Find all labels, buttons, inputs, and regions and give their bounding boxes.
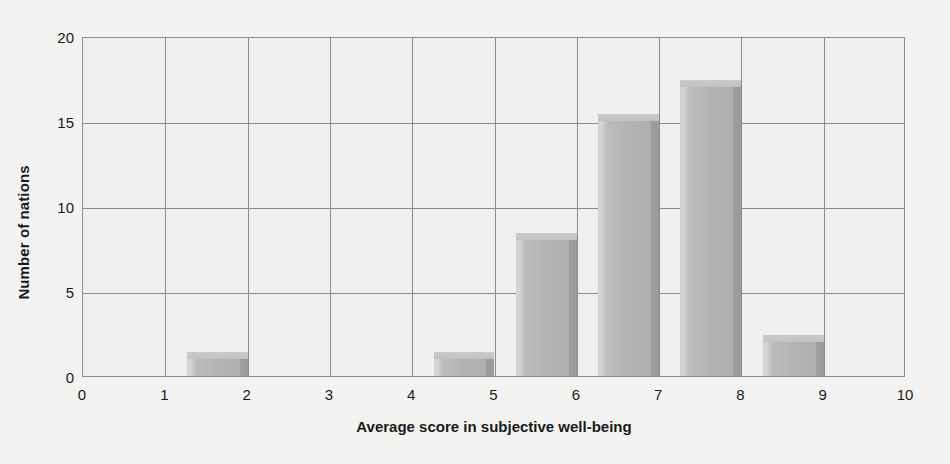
x-axis-tick: 6 (572, 386, 580, 403)
x-axis-tick: 10 (897, 386, 914, 403)
vertical-gridline (741, 38, 742, 376)
y-axis-tick: 15 (34, 114, 74, 131)
y-axis-tick: 5 (34, 284, 74, 301)
x-axis-tick: 2 (242, 386, 250, 403)
vertical-gridline (165, 38, 166, 376)
bar-side (485, 352, 494, 376)
bar-face (434, 359, 487, 376)
vertical-gridline (495, 38, 496, 376)
vertical-gridline (659, 38, 660, 376)
bar-side (568, 233, 577, 376)
bar-top (763, 335, 824, 342)
horizontal-gridline (83, 293, 904, 294)
bar (680, 87, 732, 376)
vertical-gridline (412, 38, 413, 376)
bar-face (187, 359, 240, 376)
bar-side (650, 114, 659, 376)
x-axis-tick: 8 (736, 386, 744, 403)
bar-top (187, 352, 248, 359)
bar-side (815, 335, 824, 376)
y-axis-tick: 10 (34, 199, 74, 216)
y-axis-tick: 0 (34, 369, 74, 386)
chart-figure: Number of nations 05101520 012345678910 … (0, 0, 950, 464)
vertical-gridline (248, 38, 249, 376)
x-axis-tick: 9 (819, 386, 827, 403)
bar-face (763, 342, 816, 376)
vertical-gridline (824, 38, 825, 376)
bar-top (680, 80, 741, 87)
x-axis-tick: 3 (325, 386, 333, 403)
horizontal-gridline (83, 123, 904, 124)
bar-face (516, 240, 569, 376)
bar-face (598, 121, 651, 376)
vertical-gridline (577, 38, 578, 376)
horizontal-gridline (83, 208, 904, 209)
vertical-gridline (330, 38, 331, 376)
bar-top (598, 114, 659, 121)
bar (516, 240, 568, 376)
x-axis-tick: 5 (489, 386, 497, 403)
bar-face (680, 87, 733, 376)
bar-side (239, 352, 248, 376)
bar-side (732, 80, 741, 376)
y-axis-title-text: Number of nations (15, 165, 32, 299)
bar (763, 342, 815, 376)
plot-area (82, 37, 905, 377)
bar (187, 359, 239, 376)
bar-top (516, 233, 577, 240)
y-axis-tick: 20 (34, 29, 74, 46)
x-axis-tick: 4 (407, 386, 415, 403)
x-axis-tick: 0 (78, 386, 86, 403)
bar (434, 359, 486, 376)
x-axis-tick-labels: 012345678910 (0, 386, 950, 412)
bar-top (434, 352, 495, 359)
x-axis-tick: 7 (654, 386, 662, 403)
x-axis-title: Average score in subjective well-being (82, 418, 906, 435)
x-axis-tick: 1 (160, 386, 168, 403)
bar (598, 121, 650, 376)
